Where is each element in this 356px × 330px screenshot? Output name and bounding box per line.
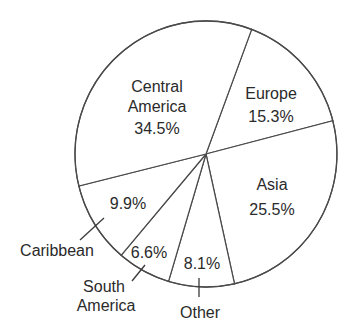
- other-value: 8.1%: [184, 255, 220, 272]
- pie-chart: Central America 34.5% Europe 15.3% Asia …: [0, 0, 356, 330]
- label-central-america: Central America 34.5%: [128, 78, 187, 137]
- label-other: 8.1% Other: [180, 255, 221, 321]
- south-america-name-line1: South: [83, 278, 125, 295]
- europe-name: Europe: [245, 85, 297, 102]
- other-name: Other: [180, 304, 221, 321]
- europe-value: 15.3%: [248, 108, 293, 125]
- caribbean-value: 9.9%: [110, 195, 146, 212]
- central-america-value: 34.5%: [134, 120, 179, 137]
- central-america-name-line2: America: [128, 98, 187, 115]
- pie-chart-svg: Central America 34.5% Europe 15.3% Asia …: [0, 0, 356, 330]
- south-america-value: 6.6%: [131, 244, 167, 261]
- pie-slices: [75, 21, 337, 287]
- caribbean-name: Caribbean: [20, 242, 94, 259]
- south-america-name-line2: America: [77, 297, 136, 314]
- asia-value: 25.5%: [249, 201, 294, 218]
- central-america-name-line1: Central: [131, 78, 183, 95]
- asia-name: Asia: [256, 176, 287, 193]
